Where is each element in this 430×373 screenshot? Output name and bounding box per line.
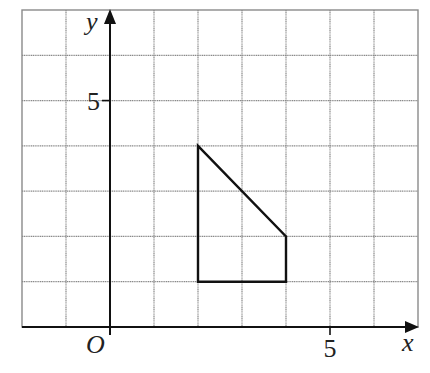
ticks: 55 bbox=[87, 87, 337, 363]
y-axis-label: y bbox=[83, 7, 98, 36]
y-tick-label: 5 bbox=[87, 87, 100, 116]
x-axis-label: x bbox=[401, 328, 414, 357]
axes bbox=[22, 9, 419, 335]
origin-label: O bbox=[86, 330, 105, 359]
x-tick-label: 5 bbox=[324, 334, 337, 363]
coordinate-grid-diagram: 55 x y O bbox=[0, 0, 430, 373]
y-axis-arrow-icon bbox=[104, 9, 116, 24]
